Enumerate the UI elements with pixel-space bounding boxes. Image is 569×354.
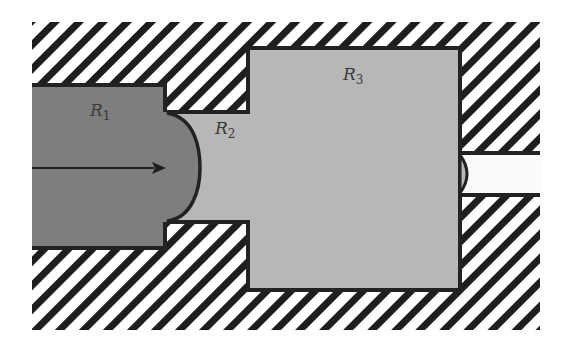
flow-regions-diagram: R1 R2 R3 — [0, 0, 569, 354]
outlet-channel — [460, 153, 542, 195]
